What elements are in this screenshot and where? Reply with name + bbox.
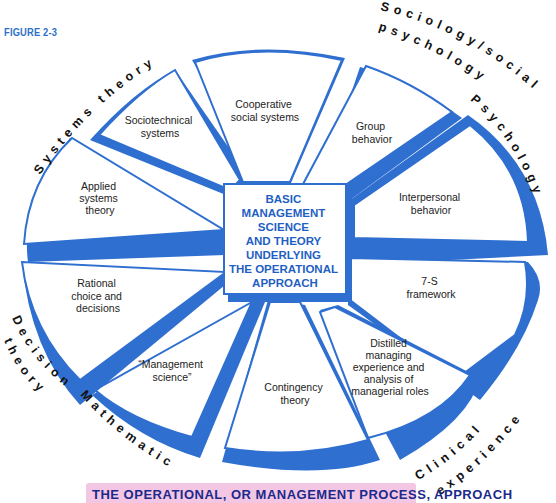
center-box: BASIC MANAGEMENT SCIENCE AND THEORY UNDE… [224,184,352,302]
label-applied: Applied systems theory [79,180,120,216]
label-rational: Rational choice and decisions [71,277,125,314]
center-title: BASIC MANAGEMENT SCIENCE AND THEORY UNDE… [229,193,341,289]
label-cooperative: Cooperative social systems [231,98,299,123]
bottom-banner-text: THE OPERATIONAL, OR MANAGEMENT PROCESS, … [92,487,513,502]
outer-label-sociology: Sociology/social [379,0,544,94]
label-group: Group behavior [352,120,393,145]
